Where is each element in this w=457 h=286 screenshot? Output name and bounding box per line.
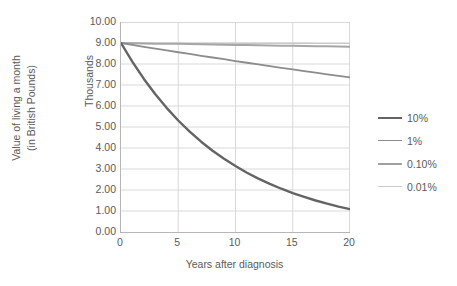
legend-label: 0.10% (407, 158, 437, 170)
legend-label: 10% (407, 112, 428, 124)
legend-item[interactable]: 10% (378, 106, 456, 129)
plot-area (120, 22, 350, 233)
y-axis-title-line-1: Value of living a month (9, 23, 24, 193)
y-axis-title-line-2: (in British Pounds) (24, 23, 39, 193)
y-axis-tick-label: 5.00 (72, 120, 116, 132)
x-axis-title: Years after diagnosis (120, 258, 349, 270)
y-axis-tick-label: 4.00 (72, 141, 116, 153)
legend-swatch-icon (378, 186, 402, 187)
chart-legend: 10%1%0.10%0.01% (378, 106, 456, 198)
legend-label: 0.01% (407, 181, 437, 193)
x-axis-tick-label: 5 (162, 236, 192, 248)
x-axis-tick-label: 15 (277, 236, 307, 248)
legend-item[interactable]: 1% (378, 129, 456, 152)
y-axis-tick-label: 7.00 (72, 78, 116, 90)
x-axis-tick-label: 0 (105, 236, 135, 248)
series-canvas (121, 22, 350, 232)
legend-label: 1% (407, 135, 422, 147)
legend-swatch-icon (378, 163, 402, 165)
legend-swatch-icon (378, 140, 402, 141)
y-axis-title: Value of living a month (in British Poun… (9, 23, 49, 193)
legend-item[interactable]: 0.01% (378, 175, 456, 198)
y-axis-tick-label: 3.00 (72, 162, 116, 174)
y-axis-tick-label: 10.00 (72, 15, 116, 27)
y-axis-tick-label: 1.00 (72, 204, 116, 216)
legend-item[interactable]: 0.10% (378, 152, 456, 175)
x-axis-tick-label: 10 (220, 236, 250, 248)
y-axis-tick-label: 9.00 (72, 36, 116, 48)
x-axis-tick-label: 20 (334, 236, 364, 248)
y-axis-tick-label: 6.00 (72, 99, 116, 111)
legend-swatch-icon (378, 117, 402, 119)
line-chart: Value of living a month (in British Poun… (0, 0, 457, 286)
y-axis-tick-label: 8.00 (72, 57, 116, 69)
y-axis-tick-label: 2.00 (72, 183, 116, 195)
